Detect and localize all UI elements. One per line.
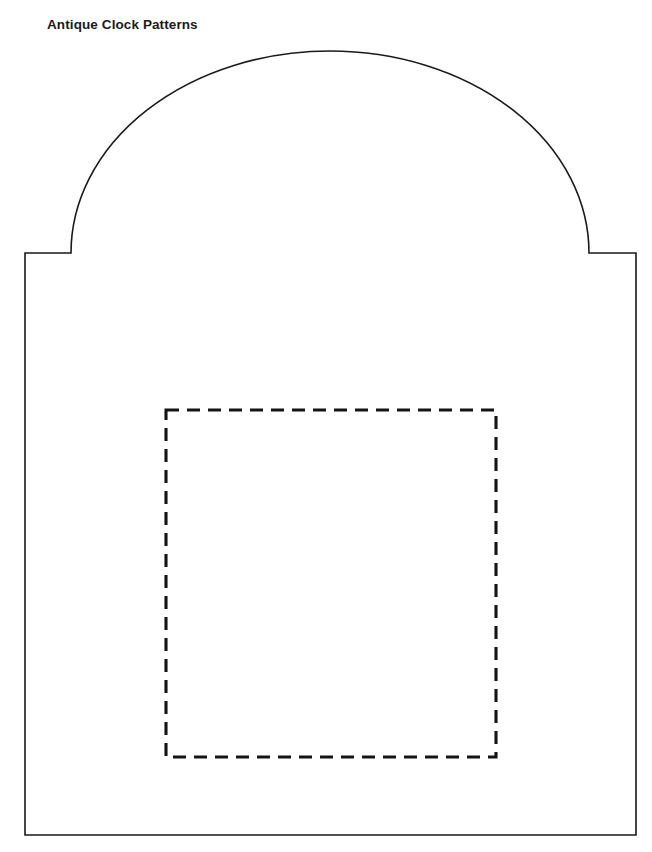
pattern-page: Antique Clock Patterns [0, 0, 652, 852]
clock-case-pattern-drawing [0, 0, 652, 852]
clock-case-outline-path [25, 51, 636, 835]
